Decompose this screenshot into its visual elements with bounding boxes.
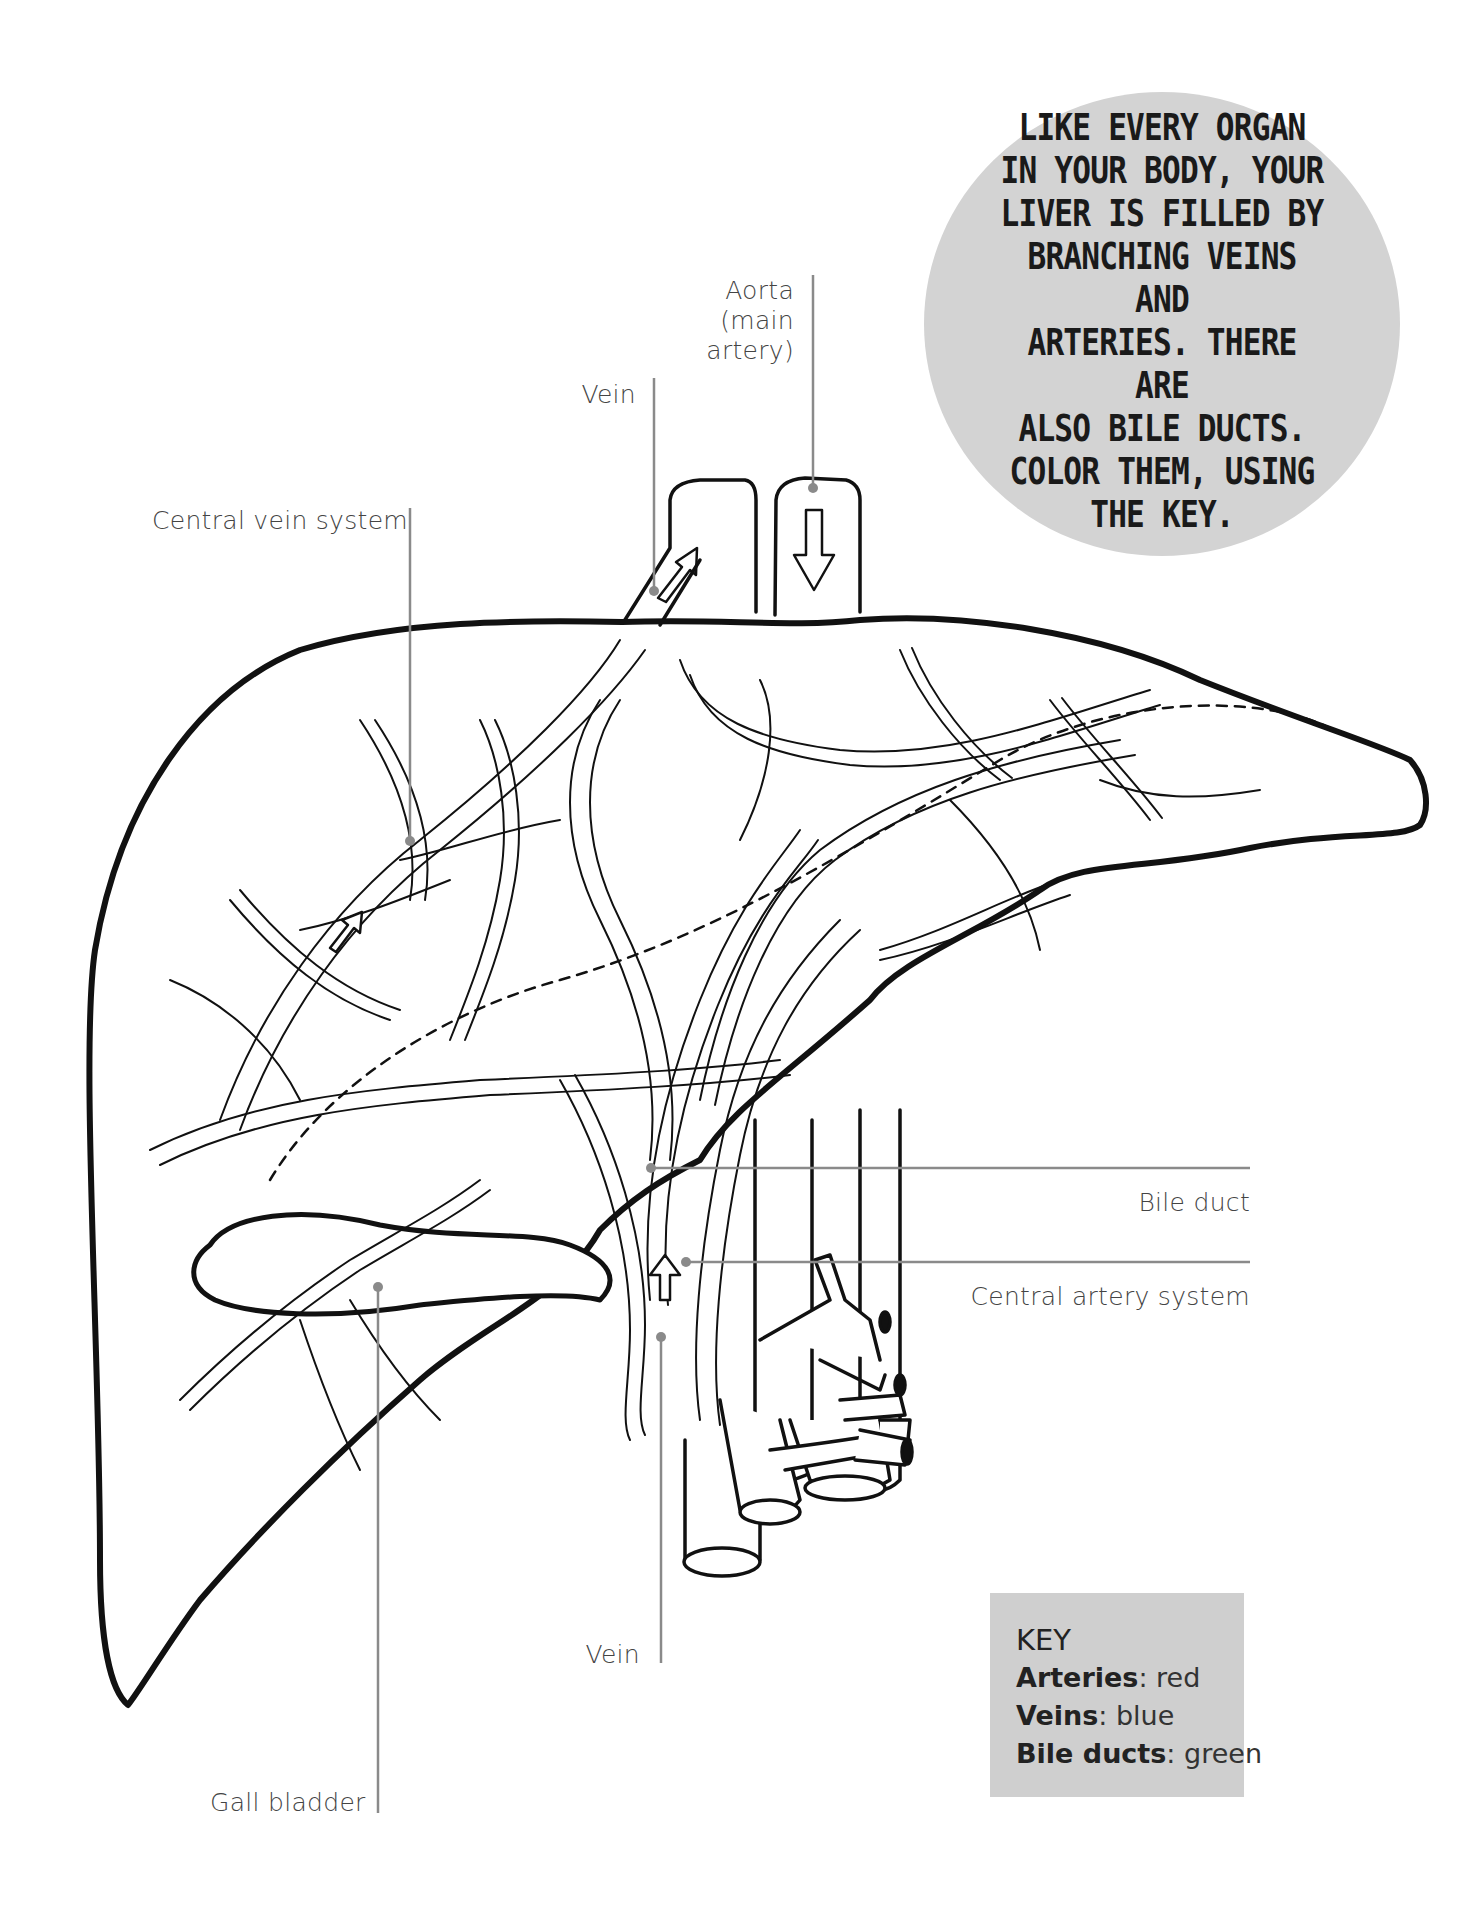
label-bile-duct: Bile duct [1000,1188,1250,1218]
key-separator: : [1098,1700,1116,1731]
key-row-arteries: Arteries: red [1016,1659,1244,1697]
label-vein-bottom: Vein [560,1640,640,1670]
callout-line: BRANCHING VEINS AND [998,235,1326,321]
key-separator: : [1166,1738,1184,1769]
label-aorta-line: Aorta [680,276,794,306]
color-key: KEY Arteries: red Veins: blue Bile ducts… [990,1593,1244,1797]
key-title: KEY [1016,1621,1244,1659]
callout-line: ALSO BILE DUCTS. [998,407,1326,450]
key-term: Bile ducts [1016,1738,1166,1769]
callout-line: LIKE EVERY ORGAN [998,106,1326,149]
upper-vessels [623,478,860,625]
label-gall-bladder: Gall bladder [210,1788,366,1818]
instruction-callout: LIKE EVERY ORGAN IN YOUR BODY, YOUR LIVE… [924,92,1400,556]
branching-vessels [150,640,1260,1470]
key-separator: : [1138,1662,1156,1693]
key-term: Veins [1016,1700,1098,1731]
instruction-text: LIKE EVERY ORGAN IN YOUR BODY, YOUR LIVE… [998,106,1326,536]
label-central-vein-system: Central vein system [152,506,408,536]
key-color: red [1156,1662,1200,1693]
callout-line: LIVER IS FILLED BY [998,192,1326,235]
lower-vessels [684,1110,912,1576]
callout-line: COLOR THEM, USING [998,450,1326,493]
label-vein-top: Vein [560,380,636,410]
callout-line: IN YOUR BODY, YOUR [998,149,1326,192]
key-row-bile-ducts: Bile ducts: green [1016,1735,1244,1773]
liver-diagram: LIKE EVERY ORGAN IN YOUR BODY, YOUR LIVE… [0,0,1464,1918]
callout-line: THE KEY. [998,493,1326,536]
label-aorta: Aorta (main artery) [680,276,794,366]
key-color: green [1184,1738,1262,1769]
callout-line: ARTERIES. THERE ARE [998,321,1326,407]
key-term: Arteries [1016,1662,1138,1693]
label-aorta-line: (main [680,306,794,336]
label-central-artery-system: Central artery system [900,1282,1250,1312]
key-row-veins: Veins: blue [1016,1697,1244,1735]
key-color: blue [1116,1700,1174,1731]
label-aorta-line: artery) [680,336,794,366]
